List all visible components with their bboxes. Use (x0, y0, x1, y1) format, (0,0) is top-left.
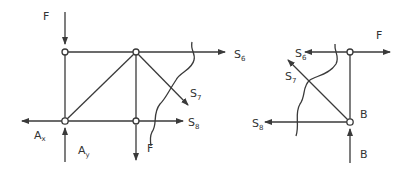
member-diagonal (65, 52, 136, 121)
label-S8-right: S8 (252, 117, 263, 132)
label-S7-right: S7 (285, 70, 296, 85)
label-B-node: B (360, 108, 368, 121)
label-B-force: B (360, 148, 368, 161)
force-arrow-S7-left (136, 52, 188, 105)
label-F-right: F (376, 29, 382, 42)
node-top-right (347, 49, 353, 55)
diagram-canvas: F S6 S7 S8 Ax Ay F F S6 S7 S8 B B (0, 0, 410, 175)
label-S8-left: S8 (188, 116, 199, 131)
node-B (347, 119, 353, 125)
node-A (62, 118, 68, 124)
section-cut-left (150, 42, 194, 146)
label-F-top: F (43, 10, 49, 23)
label-S6-right: S6 (295, 47, 307, 62)
truss-diagram: F S6 S7 S8 Ax Ay F F S6 S7 S8 B B (0, 0, 410, 175)
node-bottom-middle (133, 118, 139, 124)
label-Ay: Ay (78, 144, 90, 159)
label-S7-left: S7 (190, 87, 201, 102)
node-top-middle (133, 49, 139, 55)
label-Ax: Ax (34, 129, 46, 143)
node-top-left (62, 49, 68, 55)
label-S6-left: S6 (234, 48, 246, 63)
label-F-bottom: F (147, 142, 153, 155)
